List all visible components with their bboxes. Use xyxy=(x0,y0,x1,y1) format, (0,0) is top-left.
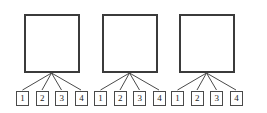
leaf-row-group-2: 1 2 3 4 xyxy=(94,91,166,106)
leaf-node-3-2[interactable]: 2 xyxy=(191,91,204,106)
leaf-node-2-2[interactable]: 2 xyxy=(114,91,127,106)
leaf-node-3-3[interactable]: 3 xyxy=(210,91,223,106)
node-group-1: 1 2 3 4 xyxy=(12,0,92,113)
node-group-2: 1 2 3 4 xyxy=(90,0,170,113)
leaf-node-2-4[interactable]: 4 xyxy=(153,91,166,106)
leaf-node-2-3[interactable]: 3 xyxy=(133,91,146,106)
leaf-node-1-1[interactable]: 1 xyxy=(16,91,29,106)
parent-node-2[interactable] xyxy=(102,14,158,73)
leaf-node-3-1[interactable]: 1 xyxy=(171,91,184,106)
leaf-node-1-3[interactable]: 3 xyxy=(55,91,68,106)
diagram-canvas: 1 2 3 4 1 2 3 4 1 2 xyxy=(0,0,267,113)
parent-node-1[interactable] xyxy=(24,14,80,73)
leaf-row-group-1: 1 2 3 4 xyxy=(16,91,88,106)
parent-node-3[interactable] xyxy=(179,14,235,73)
leaf-node-1-4[interactable]: 4 xyxy=(75,91,88,106)
node-group-3: 1 2 3 4 xyxy=(167,0,247,113)
leaf-row-group-3: 1 2 3 4 xyxy=(171,91,243,106)
leaf-node-2-1[interactable]: 1 xyxy=(94,91,107,106)
leaf-node-1-2[interactable]: 2 xyxy=(36,91,49,106)
leaf-node-3-4[interactable]: 4 xyxy=(230,91,243,106)
